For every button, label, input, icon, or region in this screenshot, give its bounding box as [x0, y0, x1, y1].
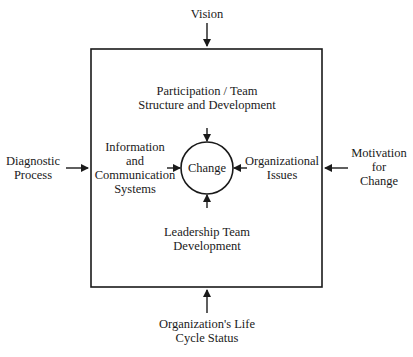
diagnostic-process-label: Diagnostic Process — [0, 154, 66, 182]
information-systems-label: Information and Communication Systems — [94, 140, 176, 196]
lifecycle-text-line2: Cycle Status — [147, 331, 267, 345]
information-text-line3: Communication — [94, 168, 176, 182]
diagnostic-text-line1: Diagnostic — [0, 154, 66, 168]
information-text-line2: and — [94, 154, 176, 168]
life-cycle-status-label: Organization's Life Cycle Status — [147, 317, 267, 345]
participation-text-line1: Participation / Team — [127, 84, 287, 98]
leadership-team-label: Leadership Team Development — [147, 225, 267, 253]
participation-team-label: Participation / Team Structure and Devel… — [127, 84, 287, 112]
leadership-text-line2: Development — [147, 239, 267, 253]
diagnostic-text-line2: Process — [0, 168, 66, 182]
information-text-line4: Systems — [94, 182, 176, 196]
organizational-text-line1: Organizational — [243, 154, 321, 168]
information-text-line1: Information — [94, 140, 176, 154]
lifecycle-text-line1: Organization's Life — [147, 317, 267, 331]
participation-text-line2: Structure and Development — [127, 98, 287, 112]
leadership-text-line1: Leadership Team — [147, 225, 267, 239]
motivation-text-line2: for — [346, 160, 412, 174]
organizational-text-line2: Issues — [243, 168, 321, 182]
change-label: Change — [177, 161, 237, 175]
organizational-issues-label: Organizational Issues — [243, 154, 321, 182]
motivation-text-line3: Change — [346, 174, 412, 188]
motivation-for-change-label: Motivation for Change — [346, 146, 412, 188]
change-text: Change — [177, 161, 237, 175]
motivation-text-line1: Motivation — [346, 146, 412, 160]
vision-label: Vision — [177, 7, 237, 21]
vision-text: Vision — [177, 7, 237, 21]
